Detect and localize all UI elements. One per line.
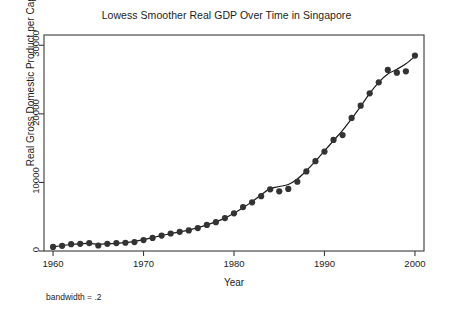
data-point (113, 240, 119, 246)
data-point (267, 186, 273, 192)
data-point (240, 204, 246, 210)
data-point (330, 137, 336, 143)
data-point (195, 225, 201, 231)
data-point (339, 132, 345, 138)
data-point (86, 240, 92, 246)
data-point (104, 241, 110, 247)
data-point (68, 241, 74, 247)
axis-ticks (39, 45, 415, 256)
data-point (95, 242, 101, 248)
plot-area (0, 0, 453, 314)
data-point (168, 230, 174, 236)
data-point (50, 244, 56, 250)
data-point (321, 148, 327, 154)
chart-figure: Lowess Smoother Real GDP Over Time in Si… (0, 0, 453, 314)
data-point (358, 103, 364, 109)
data-point (276, 188, 282, 194)
data-point (231, 210, 237, 216)
data-point (122, 240, 128, 246)
data-point (159, 232, 165, 238)
data-point (177, 229, 183, 235)
data-point (59, 243, 65, 249)
data-point (385, 67, 391, 73)
data-point (249, 199, 255, 205)
data-point (303, 168, 309, 174)
lowess-smoother-line (53, 56, 415, 247)
data-point (204, 222, 210, 228)
data-point (394, 70, 400, 76)
data-point (349, 115, 355, 121)
data-point (412, 52, 418, 58)
data-point (186, 227, 192, 233)
data-point (258, 193, 264, 199)
data-point (131, 239, 137, 245)
data-point (403, 68, 409, 74)
data-point (213, 219, 219, 225)
data-point (140, 237, 146, 243)
data-point (367, 90, 373, 96)
data-point (77, 241, 83, 247)
data-point (285, 186, 291, 192)
data-points (50, 52, 418, 250)
data-point (222, 215, 228, 221)
data-point (376, 79, 382, 85)
axes-frame (44, 35, 424, 251)
data-point (312, 158, 318, 164)
data-point (149, 235, 155, 241)
data-point (294, 179, 300, 185)
